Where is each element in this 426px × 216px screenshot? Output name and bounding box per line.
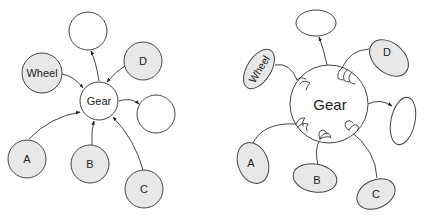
left-c-label: C	[140, 183, 148, 195]
edge-b-to-gear-r	[316, 139, 320, 165]
edge-gear-to-top	[91, 51, 99, 81]
right-d-node	[363, 32, 416, 83]
edge-gear-to-top-r	[319, 37, 327, 65]
right-right-empty-node	[386, 95, 419, 147]
edge-a-to-gear	[29, 112, 80, 139]
edge-gear-to-right-r	[368, 101, 392, 106]
edge-wheel-to-gear	[62, 74, 83, 88]
left-diagram: Wheel D Gear A B C	[8, 12, 175, 208]
right-d-label: D	[383, 46, 391, 58]
left-a-label: A	[23, 153, 31, 165]
edge-b-to-gear	[92, 121, 94, 145]
edge-d-to-gear-r	[342, 49, 369, 68]
edge-gear-to-right	[119, 100, 139, 104]
edge-a-to-gear-r	[252, 124, 296, 145]
left-right-empty-node	[137, 95, 175, 133]
right-a-label: A	[247, 157, 255, 169]
left-wheel-label: Wheel	[26, 67, 57, 79]
right-diagram: Wheel D Gear A B	[232, 10, 420, 215]
diagram-canvas: Wheel D Gear A B C	[0, 0, 426, 216]
left-gear-label: Gear	[87, 95, 112, 107]
edge-d-to-gear	[107, 66, 125, 82]
left-d-label: D	[139, 55, 147, 67]
right-gear-label: Gear	[313, 96, 346, 113]
right-top-empty-node	[296, 10, 336, 36]
right-c-label: C	[372, 188, 380, 200]
left-b-label: B	[86, 158, 93, 170]
edge-c-to-gear-r	[349, 130, 377, 178]
right-b-label: B	[313, 174, 320, 186]
left-top-empty-node	[69, 12, 107, 50]
edge-wheel-to-gear-r	[275, 65, 297, 80]
edge-c-to-gear	[113, 117, 143, 170]
